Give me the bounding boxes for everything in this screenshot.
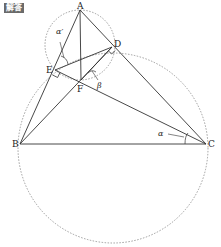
label-E: E (46, 65, 53, 75)
alpha-prime-leader (60, 42, 64, 58)
angle-arc-alpha-prime (61, 56, 68, 64)
angle-label-beta: β (96, 81, 102, 90)
segment-AF (80, 10, 81, 80)
label-D: D (114, 39, 121, 49)
segment-AB (20, 10, 80, 144)
large-circle (18, 53, 208, 243)
segment-AC (80, 10, 206, 144)
label-C: C (208, 139, 215, 149)
segment-ED (55, 47, 112, 70)
segment-CE (55, 70, 206, 144)
label-F: F (77, 84, 83, 94)
right-angle-mark-E (53, 73, 60, 78)
angle-label-alpha: α (158, 129, 164, 138)
label-A: A (76, 1, 84, 11)
geometry-diagram: A D E F B C α′ β α (0, 0, 221, 247)
alpha-leader (168, 134, 184, 137)
label-B: B (12, 139, 19, 149)
angle-label-alpha-prime: α′ (56, 27, 63, 36)
segment-FD (81, 47, 112, 80)
